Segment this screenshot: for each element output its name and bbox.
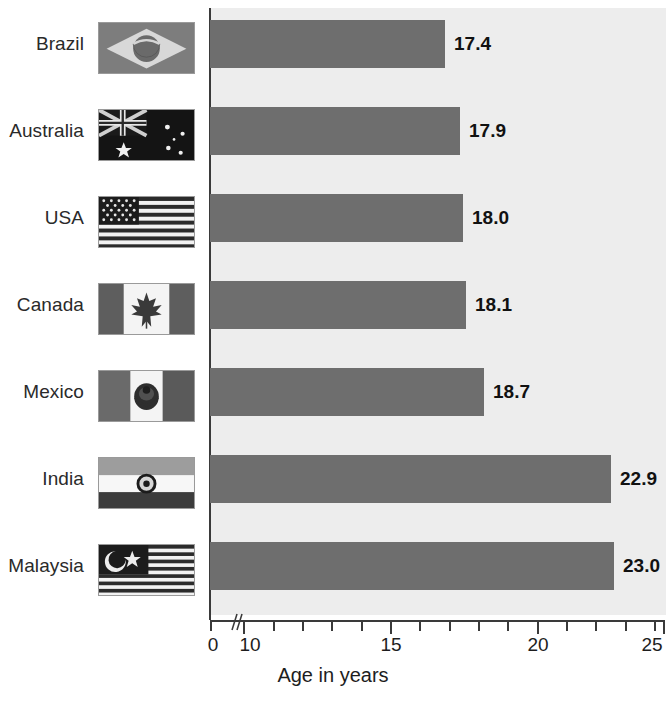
x-axis-zero-stub <box>210 620 230 622</box>
chart-row-mexico: Mexico 18.7 <box>0 348 666 436</box>
category-label-canada: Canada <box>0 261 88 349</box>
bar-chart: Brazil 17.4 Australia <box>0 0 666 707</box>
x-tick-10 <box>243 622 245 634</box>
bar-value-canada: 18.1 <box>466 281 512 329</box>
malaysia-flag-svg <box>99 545 194 596</box>
x-tick-label-10: 10 <box>239 634 260 656</box>
x-tick-25 <box>663 622 665 634</box>
chart-row-australia: Australia 17.9 <box>0 87 666 175</box>
x-tick-23 <box>625 622 627 631</box>
x-tick-0 <box>210 622 212 631</box>
category-label-usa: USA <box>0 174 88 262</box>
category-label-australia: Australia <box>0 87 88 175</box>
bar-australia <box>210 107 460 155</box>
chart-row-india: India 22.9 <box>0 435 666 523</box>
x-tick-11 <box>273 622 275 631</box>
bar-value-australia: 17.9 <box>460 107 506 155</box>
australia-flag-icon <box>98 109 195 161</box>
chart-row-usa: USA <box>0 174 666 262</box>
usa-flag-svg <box>99 197 194 248</box>
x-tick-label-0: 0 <box>208 634 219 656</box>
x-axis-title: Age in years <box>0 664 666 687</box>
chart-row-brazil: Brazil 17.4 <box>0 0 666 88</box>
x-tick-19 <box>507 622 509 631</box>
brazil-flag-svg <box>99 23 194 74</box>
chart-row-malaysia: Malaysia 23.0 <box>0 522 666 610</box>
canada-flag-svg <box>99 284 194 335</box>
bar-value-usa: 18.0 <box>463 194 509 242</box>
x-tick-label-15: 15 <box>380 634 401 656</box>
bar-value-brazil: 17.4 <box>445 20 491 68</box>
bar-value-india: 22.9 <box>611 455 657 503</box>
brazil-flag-icon <box>98 22 195 74</box>
chart-row-canada: Canada 18.1 <box>0 261 666 349</box>
bar-india <box>210 455 611 503</box>
x-tick-21 <box>566 622 568 631</box>
x-tick-15 <box>390 622 392 634</box>
axis-break-icon <box>228 612 244 632</box>
malaysia-flag-icon <box>98 544 195 596</box>
bar-brazil <box>210 20 445 68</box>
x-tick-18 <box>478 622 480 631</box>
x-tick-label-20: 20 <box>527 634 548 656</box>
x-tick-14 <box>361 622 363 631</box>
category-label-brazil: Brazil <box>0 0 88 88</box>
category-label-malaysia: Malaysia <box>0 522 88 610</box>
usa-flag-icon <box>98 196 195 248</box>
category-label-mexico: Mexico <box>0 348 88 436</box>
india-flag-svg <box>99 458 194 509</box>
mexico-flag-svg <box>99 371 194 422</box>
x-tick-17 <box>449 622 451 631</box>
australia-flag-svg <box>99 110 194 161</box>
canada-flag-icon <box>98 283 195 335</box>
x-tick-12 <box>302 622 304 631</box>
x-tick-16 <box>419 622 421 631</box>
x-tick-13 <box>331 622 333 631</box>
bar-value-malaysia: 23.0 <box>614 542 660 590</box>
bar-malaysia <box>210 542 614 590</box>
bar-mexico <box>210 368 484 416</box>
india-flag-icon <box>98 457 195 509</box>
category-label-india: India <box>0 435 88 523</box>
bar-usa <box>210 194 463 242</box>
x-tick-22 <box>595 622 597 631</box>
x-tick-label-25: 25 <box>641 634 662 656</box>
bar-canada <box>210 281 466 329</box>
x-tick-20 <box>537 622 539 634</box>
bar-value-mexico: 18.7 <box>484 368 530 416</box>
mexico-flag-icon <box>98 370 195 422</box>
x-tick-24 <box>654 622 656 631</box>
